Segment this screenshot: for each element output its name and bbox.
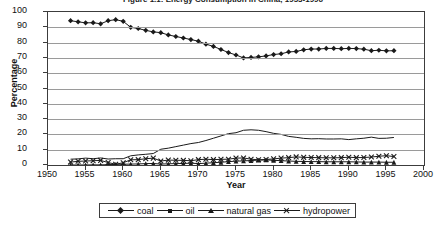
legend-item-natural-gas[interactable]: natural gas (195, 206, 272, 216)
gridline-60 (48, 73, 424, 74)
y-tick-0: 0 (1, 159, 27, 168)
legend-label-hydropower: hydropower (303, 206, 350, 216)
chart-legend: coaloilnatural gashydropower (99, 203, 356, 218)
legend-item-oil[interactable]: oil (154, 206, 195, 216)
x-tick-mark-1960 (122, 166, 123, 170)
gridline-10 (48, 150, 424, 151)
x-tick-mark-1985 (310, 166, 311, 170)
y-tick-10: 10 (1, 144, 27, 153)
legend-swatch-coal (108, 206, 134, 215)
gridline-40 (48, 104, 424, 105)
legend-label-coal: coal (137, 206, 154, 216)
legend-label-oil: oil (186, 206, 195, 216)
legend-item-coal[interactable]: coal (105, 206, 154, 216)
gridlines (48, 12, 424, 165)
x-tick-1975: 1975 (215, 169, 255, 179)
gridline-30 (48, 119, 424, 120)
x-tick-mark-1965 (160, 166, 161, 170)
gridline-90 (48, 27, 424, 28)
x-tick-mark-2000 (423, 166, 424, 170)
x-tick-mark-1995 (385, 166, 386, 170)
x-tick-2000: 2000 (403, 169, 443, 179)
x-tick-mark-1990 (348, 166, 349, 170)
x-tick-1980: 1980 (253, 169, 293, 179)
legend-swatch-natural-gas (198, 206, 224, 215)
chart-title: Figure 1.1: Energy Consumption in China,… (0, 0, 446, 5)
triangle-marker-icon (208, 208, 214, 213)
legend-swatch-hydropower (274, 206, 300, 215)
x-tick-1965: 1965 (140, 169, 180, 179)
x-tick-mark-1975 (235, 166, 236, 170)
x-tick-1995: 1995 (365, 169, 405, 179)
x-tick-1955: 1955 (65, 169, 105, 179)
x-tick-mark-1980 (273, 166, 274, 170)
diamond-marker-icon (117, 207, 124, 214)
y-tick-100: 100 (1, 6, 27, 15)
chart-figure: Figure 1.1: Energy Consumption in China,… (0, 0, 446, 225)
y-tick-80: 80 (1, 37, 27, 46)
y-tick-20: 20 (1, 128, 27, 137)
legend-item-hydropower[interactable]: hydropower (271, 206, 350, 216)
gridline-20 (48, 134, 424, 135)
y-tick-50: 50 (1, 83, 27, 92)
gridline-50 (48, 89, 424, 90)
x-tick-1990: 1990 (328, 169, 368, 179)
gridline-70 (48, 58, 424, 59)
plot-area (47, 11, 425, 166)
x-tick-mark-1950 (47, 166, 48, 170)
x-tick-mark-1970 (197, 166, 198, 170)
y-tick-30: 30 (1, 113, 27, 122)
y-tick-60: 60 (1, 67, 27, 76)
y-tick-70: 70 (1, 52, 27, 61)
legend-swatch-oil (157, 206, 183, 215)
square-marker-icon (168, 209, 172, 213)
x-tick-1970: 1970 (177, 169, 217, 179)
x-axis-label: Year (47, 180, 425, 190)
cross-marker-icon (283, 207, 290, 214)
x-tick-mark-1955 (85, 166, 86, 170)
x-tick-1985: 1985 (290, 169, 330, 179)
x-tick-1960: 1960 (102, 169, 142, 179)
legend-label-natural-gas: natural gas (227, 206, 272, 216)
x-tick-1950: 1950 (27, 169, 67, 179)
gridline-80 (48, 43, 424, 44)
y-tick-40: 40 (1, 98, 27, 107)
y-tick-90: 90 (1, 21, 27, 30)
